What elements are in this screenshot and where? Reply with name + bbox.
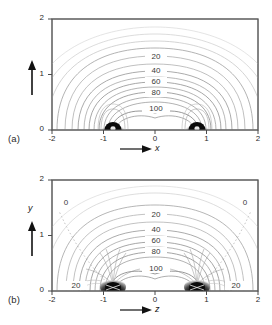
panel-a-contour-label-40: 40 — [145, 66, 167, 75]
panel-b-contour-label-100: 100 — [142, 264, 170, 273]
panel-b: (b) y -2 -1 0 1 2 0 1 2 z 0 0 20 40 60 8… — [0, 161, 272, 323]
panel-b-xtick-2: 0 — [145, 295, 165, 304]
panel-b-contour-label-0-left: 0 — [58, 198, 74, 207]
panel-a-contour-label-20: 20 — [145, 52, 167, 61]
panel-a-xtick-4: 2 — [248, 134, 268, 143]
panel-a-plot — [0, 0, 272, 162]
figure-container: (a) -2 -1 0 1 2 0 1 2 x 20 40 60 80 100 — [0, 0, 272, 325]
panel-b-x-axis-title: z — [155, 304, 160, 314]
panel-a-x-axis-title: x — [155, 143, 160, 153]
panel-b-y-axis-title: y — [28, 203, 33, 213]
panel-a-contour-label-100: 100 — [142, 104, 170, 113]
panel-a-ytick-2: 2 — [26, 13, 44, 22]
panel-a-xtick-1: -1 — [94, 134, 114, 143]
panel-a-y-ticks — [48, 19, 52, 130]
panel-b-xtick-1: -1 — [94, 295, 114, 304]
panel-b-xtick-4: 2 — [248, 295, 268, 304]
panel-b-contour-label-80: 80 — [145, 247, 167, 256]
panel-a-xtick-3: 1 — [197, 134, 217, 143]
panel-b-contour-label-20-right: 20 — [225, 281, 247, 290]
panel-a-ytick-0: 0 — [26, 124, 44, 133]
panel-a: (a) -2 -1 0 1 2 0 1 2 x 20 40 60 80 100 — [0, 0, 272, 162]
panel-b-plot — [0, 161, 272, 323]
panel-b-xtick-3: 1 — [197, 295, 217, 304]
panel-b-contour-label-20-left: 20 — [65, 281, 87, 290]
panel-b-x-arrow — [120, 306, 152, 314]
panel-b-ytick-1: 1 — [26, 230, 44, 239]
panel-b-letter: (b) — [8, 294, 20, 305]
panel-b-contour-label-40: 40 — [145, 225, 167, 234]
panel-b-ytick-2: 2 — [26, 174, 44, 183]
panel-a-ytick-1: 1 — [26, 69, 44, 78]
panel-a-letter: (a) — [8, 133, 20, 144]
panel-b-y-arrow — [28, 221, 36, 256]
panel-b-y-ticks — [48, 180, 52, 291]
panel-a-xtick-2: 0 — [145, 134, 165, 143]
panel-a-xtick-0: -2 — [42, 134, 62, 143]
panel-b-xtick-0: -2 — [42, 295, 62, 304]
panel-b-contour-label-20: 20 — [145, 210, 167, 219]
panel-b-contour-label-0-right: 0 — [237, 198, 253, 207]
panel-b-ytick-0: 0 — [26, 285, 44, 294]
panel-b-contour-label-60: 60 — [145, 236, 167, 245]
panel-a-x-arrow — [120, 145, 152, 153]
panel-a-y-arrow — [28, 60, 36, 95]
panel-a-contour-label-80: 80 — [145, 88, 167, 97]
panel-a-contour-label-60: 60 — [145, 77, 167, 86]
